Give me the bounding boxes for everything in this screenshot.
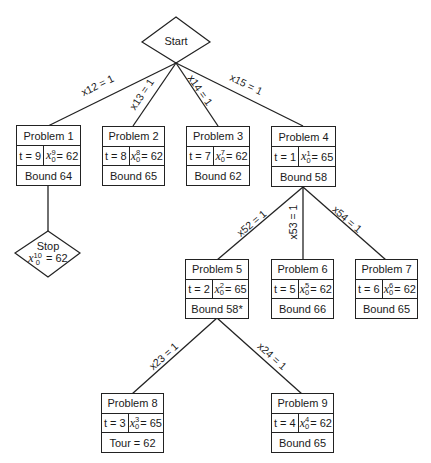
node-title: Problem 6 [272,260,333,279]
node-bound: Bound 65 [103,165,164,185]
node-bound: Bound 64 [17,165,80,185]
node-bound: Bound 58* [186,298,248,318]
problem-node-5: Problem 5 t = 2x20= 65 Bound 58* [185,259,249,319]
node-t: t = 3 [102,414,129,433]
problem-node-8: Problem 8 t = 3x30= 65 Tour = 62 [101,393,164,453]
node-x: x60= 62 [383,280,417,299]
stop-supsub: 100 [34,252,42,266]
node-x: x70= 62 [214,147,249,166]
problem-node-7: Problem 7 t = 6x60= 62 Bound 65 [355,259,418,319]
node-t: t = 6 [356,280,383,299]
node-x: x40= 62 [299,414,333,433]
node-title: Problem 2 [103,127,164,146]
start-label: Start [152,35,200,47]
problem-node-2: Problem 2 t = 8x80= 62 Bound 65 [102,126,165,186]
node-t: t = 8 [103,147,130,166]
tree-edges [0,0,431,463]
problem-node-3: Problem 3 t = 7x70= 62 Bound 62 [186,126,250,186]
node-bound: Bound 58 [272,166,335,186]
node-title: Problem 3 [187,127,249,146]
node-x: x10= 65 [299,147,335,166]
stop-label: Stop x100 = 62 [20,240,76,266]
problem-node-1: Problem 1 t = 9x90= 62 Bound 64 [16,125,81,186]
node-title: Problem 1 [17,126,80,145]
node-x: x50= 62 [299,280,333,299]
node-t: t = 4 [272,414,299,433]
node-bound: Bound 65 [356,298,417,318]
node-t: t = 7 [187,147,214,166]
node-t: t = 5 [272,280,299,299]
node-title: Problem 9 [272,394,333,413]
node-tour: Tour = 62 [102,432,163,452]
node-bound: Bound 66 [272,298,333,318]
node-title: Problem 7 [356,260,417,279]
stop-value: = 62 [46,252,68,264]
node-bound: Bound 62 [187,165,249,185]
node-title: Problem 8 [102,394,163,413]
node-x: x80= 62 [130,147,164,166]
problem-node-9: Problem 9 t = 4x40= 62 Bound 65 [271,393,334,453]
node-title: Problem 5 [186,260,248,279]
problem-node-4: Problem 4 t = 1x10= 65 Bound 58 [271,126,336,187]
node-title: Problem 4 [272,127,335,146]
stop-sub: 0 [34,259,42,266]
node-x: x20= 65 [213,280,248,299]
node-t: t = 1 [272,147,299,166]
node-x: x90= 62 [44,146,80,165]
problem-node-6: Problem 6 t = 5x50= 62 Bound 66 [271,259,334,319]
node-x: x30= 65 [129,414,163,433]
node-t: t = 2 [186,280,213,299]
node-t: t = 9 [17,146,44,165]
edge-label-x53: x53 = 1 [287,205,299,240]
node-bound: Bound 65 [272,432,333,452]
